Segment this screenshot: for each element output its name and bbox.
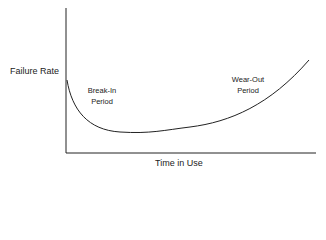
x-axis-label: Time in Use [155,158,203,169]
break-in-line1: Break-In [72,85,132,96]
y-axis-label: Failure Rate [10,66,59,77]
wear-out-line2: Period [218,85,278,96]
break-in-annotation: Break-In Period [72,85,132,107]
wear-out-annotation: Wear-Out Period [218,74,278,96]
wear-out-line1: Wear-Out [218,74,278,85]
break-in-line2: Period [72,96,132,107]
